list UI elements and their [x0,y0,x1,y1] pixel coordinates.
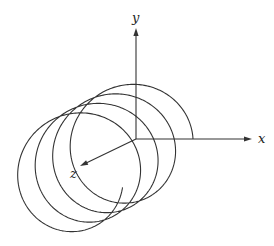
helix-curve [18,84,193,231]
helix-diagram: y x z [0,0,274,246]
x-arrowhead-icon [244,136,252,141]
y-arrowhead-icon [133,28,138,36]
z-axis-label: z [69,166,77,181]
y-axis-label: y [131,10,140,25]
z-axis [84,139,136,164]
x-axis-label: x [258,131,266,146]
z-arrowhead-icon [80,160,88,166]
